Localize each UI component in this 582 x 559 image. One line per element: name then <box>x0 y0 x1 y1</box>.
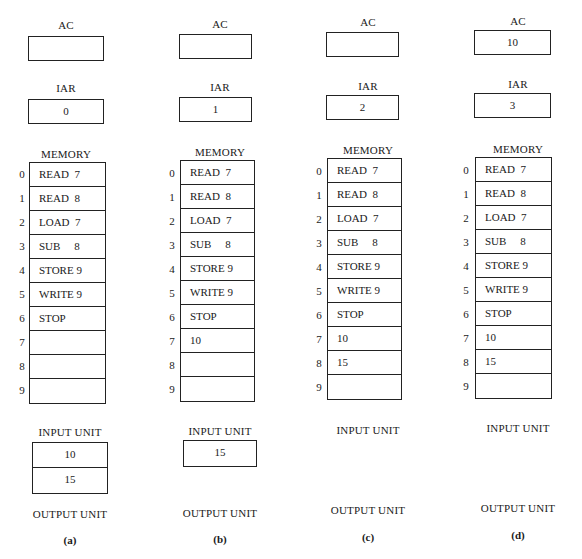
ac-register: 10 <box>474 30 551 55</box>
panel-caption: (d) <box>448 529 582 541</box>
address-1: 1 <box>166 186 178 208</box>
output-unit-label: OUTPUT UNIT <box>298 504 438 516</box>
address-5: 5 <box>166 282 178 304</box>
memory-cell-1: READ 8 <box>328 183 401 207</box>
input-value: 15 <box>184 441 256 466</box>
memory-cell-1: READ 8 <box>30 187 105 211</box>
address-4: 4 <box>166 258 178 280</box>
memory-cell-7: 10 <box>181 329 254 353</box>
iar-label: IAR <box>298 80 438 92</box>
address-7: 7 <box>313 328 325 350</box>
memory-cell-6: STOP <box>181 305 254 329</box>
memory-cell-5: WRITE 9 <box>328 279 401 303</box>
output-unit-label: OUTPUT UNIT <box>150 507 290 519</box>
address-6: 6 <box>16 307 28 329</box>
memory-cell-1: READ 8 <box>181 185 254 209</box>
address-2: 2 <box>166 210 178 232</box>
iar-label: IAR <box>0 82 136 94</box>
memory-table: READ 7 READ 8 LOAD 7 SUB 8 STORE 9 WRITE… <box>475 157 552 399</box>
address-5: 5 <box>460 279 472 301</box>
iar-register: 1 <box>179 97 252 122</box>
memory-cell-0: READ 7 <box>181 161 254 185</box>
memory-cell-2: LOAD 7 <box>30 211 105 235</box>
address-3: 3 <box>313 232 325 254</box>
ac-register <box>28 36 104 61</box>
address-6: 6 <box>166 306 178 328</box>
panel-a: AC IAR 0 MEMORY 0 1 2 3 4 5 6 7 8 9 READ… <box>0 0 140 559</box>
iar-label: IAR <box>448 78 582 90</box>
memory-cell-6: STOP <box>328 303 401 327</box>
address-5: 5 <box>16 283 28 305</box>
memory-cell-4: STORE 9 <box>476 254 551 278</box>
memory-label: MEMORY <box>0 148 136 160</box>
panel-caption: (b) <box>150 533 290 545</box>
memory-cell-4: STORE 9 <box>30 259 105 283</box>
memory-cell-2: LOAD 7 <box>328 207 401 231</box>
memory-cell-2: LOAD 7 <box>181 209 254 233</box>
panel-b: AC IAR 1 MEMORY 0 1 2 3 4 5 6 7 8 9 READ… <box>151 0 291 559</box>
iar-register: 3 <box>474 93 551 118</box>
ac-label: AC <box>298 16 438 28</box>
memory-label: MEMORY <box>448 143 582 155</box>
panel-caption: (c) <box>298 531 438 543</box>
address-8: 8 <box>166 354 178 376</box>
address-9: 9 <box>460 375 472 397</box>
address-4: 4 <box>16 259 28 281</box>
address-8: 8 <box>460 351 472 373</box>
memory-cell-9 <box>476 374 551 398</box>
address-1: 1 <box>16 187 28 209</box>
output-unit-label: OUTPUT UNIT <box>448 502 582 514</box>
address-8: 8 <box>313 352 325 374</box>
memory-cell-4: STORE 9 <box>181 257 254 281</box>
panel-caption: (a) <box>0 534 140 546</box>
address-2: 2 <box>16 211 28 233</box>
address-4: 4 <box>313 256 325 278</box>
address-0: 0 <box>460 159 472 181</box>
iar-register: 0 <box>28 99 104 124</box>
memory-cell-1: READ 8 <box>476 182 551 206</box>
address-1: 1 <box>313 184 325 206</box>
memory-label: MEMORY <box>298 144 438 156</box>
memory-cell-7: 10 <box>476 326 551 350</box>
ac-label: AC <box>448 15 582 27</box>
address-0: 0 <box>166 162 178 184</box>
ac-label: AC <box>0 19 136 31</box>
input-value: 10 <box>33 443 107 468</box>
input-unit-label: INPUT UNIT <box>448 422 582 434</box>
address-8: 8 <box>16 355 28 377</box>
address-7: 7 <box>16 331 28 353</box>
memory-cell-6: STOP <box>30 307 105 331</box>
memory-cell-5: WRITE 9 <box>476 278 551 302</box>
memory-cell-5: WRITE 9 <box>30 283 105 307</box>
address-4: 4 <box>460 255 472 277</box>
memory-cell-0: READ 7 <box>30 163 105 187</box>
memory-cell-7: 10 <box>328 327 401 351</box>
address-3: 3 <box>460 231 472 253</box>
address-0: 0 <box>16 163 28 185</box>
memory-cell-6: STOP <box>476 302 551 326</box>
address-7: 7 <box>166 330 178 352</box>
memory-cell-8: 15 <box>476 350 551 374</box>
input-unit-queue: 10 15 <box>32 442 108 494</box>
input-unit-queue: 15 <box>183 440 257 467</box>
memory-cell-4: STORE 9 <box>328 255 401 279</box>
memory-cell-8: 15 <box>328 351 401 375</box>
address-3: 3 <box>16 235 28 257</box>
panel-d: AC 10 IAR 3 MEMORY 0 1 2 3 4 5 6 7 8 9 R… <box>454 0 582 559</box>
address-6: 6 <box>313 304 325 326</box>
input-unit-label: INPUT UNIT <box>150 425 290 437</box>
address-9: 9 <box>313 376 325 398</box>
memory-cell-5: WRITE 9 <box>181 281 254 305</box>
address-2: 2 <box>460 207 472 229</box>
memory-cell-3: SUB 8 <box>476 230 551 254</box>
memory-cell-9 <box>30 379 105 403</box>
output-unit-label: OUTPUT UNIT <box>0 508 140 520</box>
ac-register <box>326 32 399 57</box>
memory-cell-3: SUB 8 <box>181 233 254 257</box>
address-7: 7 <box>460 327 472 349</box>
input-unit-label: INPUT UNIT <box>298 424 438 436</box>
memory-cell-7 <box>30 331 105 355</box>
memory-table: READ 7 READ 8 LOAD 7 SUB 8 STORE 9 WRITE… <box>180 160 255 402</box>
memory-label: MEMORY <box>150 146 290 158</box>
panel-c: AC IAR 2 MEMORY 0 1 2 3 4 5 6 7 8 9 READ… <box>298 0 438 559</box>
